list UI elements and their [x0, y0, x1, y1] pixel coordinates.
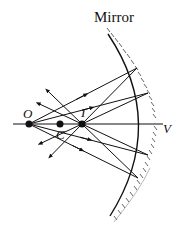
label-image: I — [80, 105, 86, 120]
mirror-surface — [108, 34, 139, 216]
label-vertex: V — [163, 121, 173, 136]
incident-rays — [29, 68, 148, 178]
label-object: O — [23, 106, 33, 121]
image-point — [79, 121, 86, 128]
concave-mirror-diagram: Mirror — [0, 0, 184, 228]
mirror-label: Mirror — [94, 9, 134, 25]
label-center: C — [56, 127, 65, 142]
reflected-rays — [38, 68, 148, 178]
object-point — [26, 121, 33, 128]
